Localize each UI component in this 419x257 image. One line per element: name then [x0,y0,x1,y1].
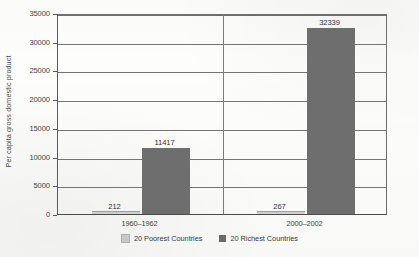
y-axis-tick-label: 15000 [29,124,50,133]
chart-figure: Per capita gross domestic product 050001… [0,0,419,257]
y-axis-tick-label: 0 [46,210,50,219]
bar-value-label: 212 [91,202,139,211]
y-axis-tick-label: 10000 [29,153,50,162]
y-axis-tick-label: 30000 [29,38,50,47]
bar-poorest [92,211,140,214]
legend-item: 20 Richest Countries [219,234,298,243]
x-axis-category-label: 2000–2002 [222,219,387,228]
bar-value-label: 11417 [141,138,189,147]
legend-swatch-poorest [121,234,130,243]
y-axis-tick-label: 25000 [29,66,50,75]
legend-item-label: 20 Richest Countries [230,234,298,243]
gridline [58,15,386,16]
y-axis-tick-label: 35000 [29,9,50,18]
bar-richest [307,28,355,214]
bar-value-label: 267 [256,202,304,211]
category-group-divider [223,15,224,214]
legend-item-label: 20 Poorest Countries [134,234,202,243]
chart-legend: 20 Poorest Countries20 Richest Countries [0,234,419,243]
legend-item: 20 Poorest Countries [121,234,202,243]
plot-area [57,14,387,215]
x-axis-category-label: 1960–1962 [57,219,222,228]
y-axis-title: Per capita gross domestic product [2,0,16,222]
y-axis-tick-label: 20000 [29,95,50,104]
legend-swatch-richest [219,235,226,242]
y-axis-tick-label: 5000 [34,181,51,190]
bar-value-label: 32339 [306,18,354,27]
bar-richest [142,148,190,214]
bar-poorest [257,211,305,214]
y-axis-title-text: Per capita gross domestic product [5,55,14,167]
y-axis-tick-mark [53,215,57,216]
